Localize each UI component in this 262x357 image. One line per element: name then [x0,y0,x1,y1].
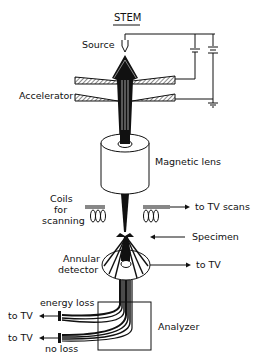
no-loss-label: no loss [45,343,78,354]
magnetic-lens [101,130,149,194]
annular-detector [102,237,191,280]
source-label: Source [82,39,115,50]
specimen-label: Specimen [192,231,239,242]
power-supply-circuit [175,34,218,107]
to-tv-energy-loss-label: to TV [8,310,33,321]
diagram-title: STEM [114,12,141,23]
focused-beam [121,194,129,232]
accelerator-label: Accelerator [19,90,73,101]
scanning-coils [85,205,190,223]
to-tv-detector-label: to TV [196,259,221,270]
analyzer-beams [62,280,132,341]
energy-loss-output [39,311,61,321]
to-tv-no-loss-label: to TV [8,332,33,343]
energy-loss-label: energy loss [40,297,95,308]
no-loss-output [39,333,61,343]
analyzer-label: Analyzer [158,321,199,332]
stem-diagram: STEM Source Accelerator [0,0,262,357]
electron-source [122,34,215,52]
annular-detector-label: Annular detector [58,253,103,275]
coils-label: Coils for scanning [42,193,85,226]
to-tv-scans-label: to TV scans [195,201,250,212]
magnetic-lens-label: Magnetic lens [155,156,221,167]
